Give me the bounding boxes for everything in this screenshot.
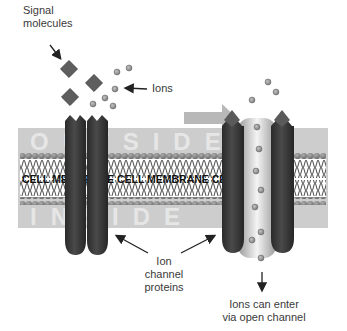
signal-molecule	[62, 89, 79, 106]
signal-molecules	[61, 61, 103, 106]
signal-arrow	[50, 45, 60, 58]
ions-label: Ions	[152, 82, 173, 95]
signal-molecules-label: Signal molecules	[23, 4, 73, 30]
closed-channel-arrow	[117, 236, 148, 253]
open-ion-channel	[222, 110, 294, 258]
signal-molecule	[86, 75, 103, 92]
ion-channel-proteins-label: Ion channel proteins	[143, 255, 185, 294]
open-channel-arrow	[181, 236, 214, 253]
ions-arrow	[126, 88, 147, 89]
ion-channel-diagram: OUTSIDE INSIDE CELL MEMBRANE CELL MEMBRA…	[0, 0, 347, 331]
signal-molecule	[61, 61, 78, 78]
ions-enter-label: Ions can enter via open channel	[222, 298, 306, 324]
inside-label: INSIDE	[30, 203, 194, 230]
outside-label: OUTSIDE	[30, 128, 235, 155]
